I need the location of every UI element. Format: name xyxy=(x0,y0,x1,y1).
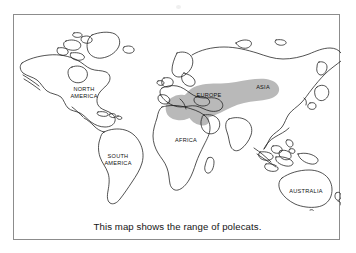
india-outline xyxy=(226,118,252,151)
world-map-svg xyxy=(14,15,341,211)
madagascar-outline xyxy=(205,157,214,173)
new-zealand-outline xyxy=(335,192,341,200)
baltic-outline xyxy=(182,73,195,86)
iceland-outline xyxy=(123,46,134,53)
figure-caption-bar: This map shows the range of polecats. xyxy=(14,211,341,241)
novaya-zemlya xyxy=(236,40,251,48)
map-figure-frame: NORTH AMERICA SOUTH AMERICA AFRICA EUROP… xyxy=(13,14,340,240)
new-guinea-outline xyxy=(298,153,318,164)
scan-artifact xyxy=(176,5,181,9)
arctic-island-5 xyxy=(70,53,84,61)
kamchatka-outline xyxy=(317,62,327,75)
greenland-outline xyxy=(87,32,120,58)
arctic-island-2 xyxy=(81,36,92,43)
coastlines xyxy=(20,32,341,211)
figure-page: NORTH AMERICA SOUTH AMERICA AFRICA EUROP… xyxy=(0,0,356,253)
world-map: NORTH AMERICA SOUTH AMERICA AFRICA EUROP… xyxy=(14,15,341,211)
new-zealand-outline-2 xyxy=(338,201,341,205)
arctic-island-4 xyxy=(57,48,68,56)
scandinavia-outline xyxy=(172,52,193,77)
hudson-bay-outline xyxy=(68,66,87,83)
east-asia-coast xyxy=(264,61,341,149)
figure-caption: This map shows the range of polecats. xyxy=(94,221,262,232)
baja-outline xyxy=(72,107,83,117)
indonesia-island-2 xyxy=(271,146,282,154)
caribbean-island-3 xyxy=(117,116,123,119)
central-america-outline xyxy=(84,118,104,132)
ireland-outline xyxy=(157,81,164,86)
australia-outline xyxy=(279,170,332,207)
caribbean-island-1 xyxy=(97,112,108,117)
arctic-island-3 xyxy=(73,33,82,38)
arctic-island-asia xyxy=(275,40,286,46)
north-asia-coast xyxy=(192,47,341,59)
indonesia-island-4 xyxy=(265,164,279,172)
philippines-island xyxy=(286,140,293,147)
japan-south-outline xyxy=(308,103,316,110)
south-america-outline xyxy=(99,129,144,204)
japan-outline xyxy=(315,85,329,100)
